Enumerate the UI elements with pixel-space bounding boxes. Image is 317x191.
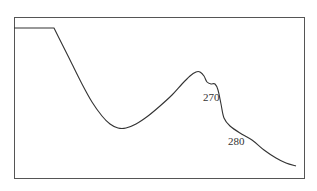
annotation-270: 270 (203, 91, 220, 103)
spectrum-curve (14, 28, 296, 166)
plot-frame (15, 18, 305, 179)
spectrum-chart: 270 280 (0, 0, 317, 191)
annotation-280: 280 (228, 135, 245, 147)
